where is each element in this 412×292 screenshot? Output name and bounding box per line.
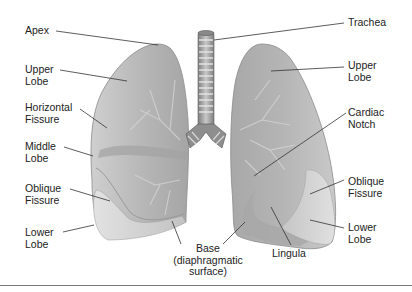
label-upper-lobe-left: Upper Lobe [25, 64, 54, 87]
label-oblique-fissure-right: Oblique Fissure [348, 176, 384, 199]
label-middle-lobe: Middle Lobe [25, 141, 56, 164]
bottom-rule [0, 285, 412, 286]
right-lung [91, 44, 189, 240]
label-lower-lobe-right: Lower Lobe [348, 222, 377, 245]
label-oblique-fissure-left: Oblique Fissure [25, 183, 61, 206]
left-lung [231, 44, 336, 249]
lungs-diagram: Apex Upper Lobe Horizontal Fissure Middl… [0, 0, 412, 292]
label-base: Base (diaphragmatic surface) [166, 243, 250, 278]
label-horizontal-fissure: Horizontal Fissure [25, 102, 72, 125]
label-cardiac-notch: Cardiac Notch [348, 107, 384, 130]
label-apex: Apex [25, 25, 49, 37]
trachea-illustration [186, 31, 226, 149]
label-lingula: Lingula [272, 248, 306, 260]
label-lower-lobe-left: Lower Lobe [25, 227, 54, 250]
label-upper-lobe-right: Upper Lobe [348, 60, 377, 83]
label-trachea: Trachea [348, 17, 386, 29]
